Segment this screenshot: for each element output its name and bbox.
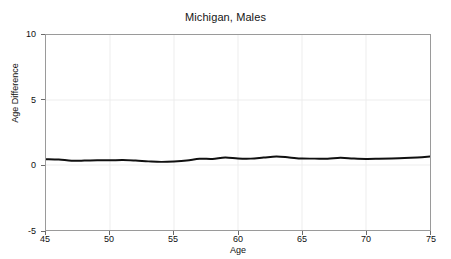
x-tick-label-45: 45 [25,234,65,244]
y-tick-label-0: 0 [0,160,36,170]
plot-area [45,34,431,231]
gridlines [46,35,430,230]
x-tick-label-70: 70 [346,234,386,244]
x-tick-mark-55 [173,231,174,235]
chart-title: Michigan, Males [0,11,451,23]
x-tick-label-50: 50 [89,234,129,244]
x-tick-mark-50 [109,231,110,235]
x-tick-label-75: 75 [411,234,451,244]
x-tick-mark-75 [430,231,431,235]
x-tick-mark-45 [45,231,46,235]
x-tick-mark-70 [366,231,367,235]
y-tick-label-5: 5 [0,95,36,105]
plot-svg [46,35,430,230]
x-tick-label-55: 55 [153,234,193,244]
x-axis-label: Age [45,245,431,255]
x-tick-mark-60 [238,231,239,235]
x-tick-mark-65 [302,231,303,235]
x-tick-label-65: 65 [282,234,322,244]
x-tick-label-60: 60 [218,234,258,244]
chart-figure: Michigan, Males Age Difference 10 5 0 -5… [0,0,451,259]
y-tick-label-10: 10 [0,29,36,39]
y-axis-label: Age Difference [10,48,20,138]
